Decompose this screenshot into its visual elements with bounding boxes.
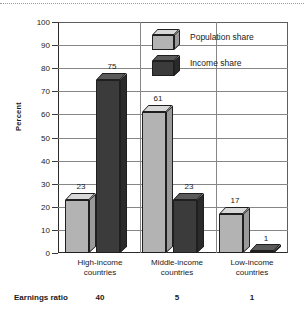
y-tick-label-100: 100: [24, 18, 50, 27]
bar-side-face: [274, 251, 281, 253]
earnings-ratio-label: Earnings ratio: [14, 293, 68, 302]
bar-front-face: [142, 112, 166, 253]
earnings-ratio-value-high-income: 40: [61, 293, 139, 302]
bar-side-face: [89, 200, 96, 253]
bar-value-low-income-income-share: 1: [254, 234, 278, 243]
gridline-60: [58, 114, 288, 115]
legend-label-population-share: Population share: [190, 32, 254, 42]
y-tick-label-70: 70: [24, 87, 50, 96]
bar-top-face: [65, 193, 89, 200]
y-tick-label-80: 80: [24, 64, 50, 73]
bar-front-face: [219, 214, 243, 253]
bar-value-high-income-income-share: 75: [100, 62, 124, 71]
earnings-ratio-value-middle-income: 5: [138, 293, 216, 302]
legend-item-population-share[interactable]: Population share: [150, 24, 278, 50]
bar-side-face: [243, 214, 250, 253]
y-tick-label-60: 60: [24, 110, 50, 119]
y-tick-label-10: 10: [24, 225, 50, 234]
bar-value-middle-income-population-share: 61: [146, 94, 170, 103]
bar-top-face: [219, 207, 243, 214]
category-label-line-1: Middle-income: [138, 258, 216, 268]
category-label-line-2: countries: [213, 268, 291, 278]
y-tick-label-90: 90: [24, 41, 50, 50]
gridline-40: [58, 161, 288, 162]
bar-middle-income-population-share[interactable]: [142, 112, 166, 253]
bar-low-income-population-share[interactable]: [219, 214, 243, 253]
bar-value-high-income-population-share: 23: [69, 182, 93, 191]
legend-swatch-population-share-icon: [152, 29, 174, 44]
bar-front-face: [65, 200, 89, 253]
bar-top-face: [96, 73, 120, 80]
category-label-high-income: High-income countries: [61, 258, 139, 278]
bar-side-face: [120, 80, 127, 253]
bar-value-middle-income-income-share: 23: [177, 182, 201, 191]
bar-high-income-population-share[interactable]: [65, 200, 89, 253]
y-tick-label-50: 50: [24, 133, 50, 142]
gridline-50: [58, 138, 288, 139]
y-tick-label-20: 20: [24, 202, 50, 211]
bar-low-income-income-share[interactable]: [250, 251, 274, 253]
bar-top-face: [250, 244, 274, 251]
category-label-line-2: countries: [61, 268, 139, 278]
category-separator-1: [140, 22, 141, 253]
bar-side-face: [166, 112, 173, 253]
bar-top-face: [142, 105, 166, 112]
category-label-middle-income: Middle-income countries: [138, 258, 216, 278]
legend-item-income-share[interactable]: Income share: [150, 50, 278, 76]
y-tick-mark-0: [52, 253, 58, 254]
bar-side-face: [197, 200, 204, 253]
category-label-low-income: Low-income countries: [213, 258, 291, 278]
category-label-line-2: countries: [138, 268, 216, 278]
y-axis-title: Percent: [14, 82, 23, 152]
category-label-line-1: Low-income: [213, 258, 291, 268]
legend-swatch-income-share-icon: [152, 55, 174, 70]
category-label-line-1: High-income: [61, 258, 139, 268]
bar-value-low-income-population-share: 17: [223, 196, 247, 205]
bar-top-face: [173, 193, 197, 200]
bar-front-face: [96, 80, 120, 253]
y-tick-label-30: 30: [24, 179, 50, 188]
chart-legend: Population share Income share: [150, 24, 278, 76]
bar-high-income-income-share[interactable]: [96, 80, 120, 253]
chart-figure: Percent 100 90 80 70 60 50 40 30 20 10 0: [0, 0, 304, 320]
bar-front-face: [250, 251, 274, 253]
y-tick-label-40: 40: [24, 156, 50, 165]
page-top-rule: [0, 3, 304, 5]
legend-label-income-share: Income share: [190, 58, 242, 68]
bar-front-face: [173, 200, 197, 253]
earnings-ratio-value-low-income: 1: [213, 293, 291, 302]
gridline-70: [58, 91, 288, 92]
y-tick-label-0: 0: [24, 249, 50, 258]
bar-middle-income-income-share[interactable]: [173, 200, 197, 253]
